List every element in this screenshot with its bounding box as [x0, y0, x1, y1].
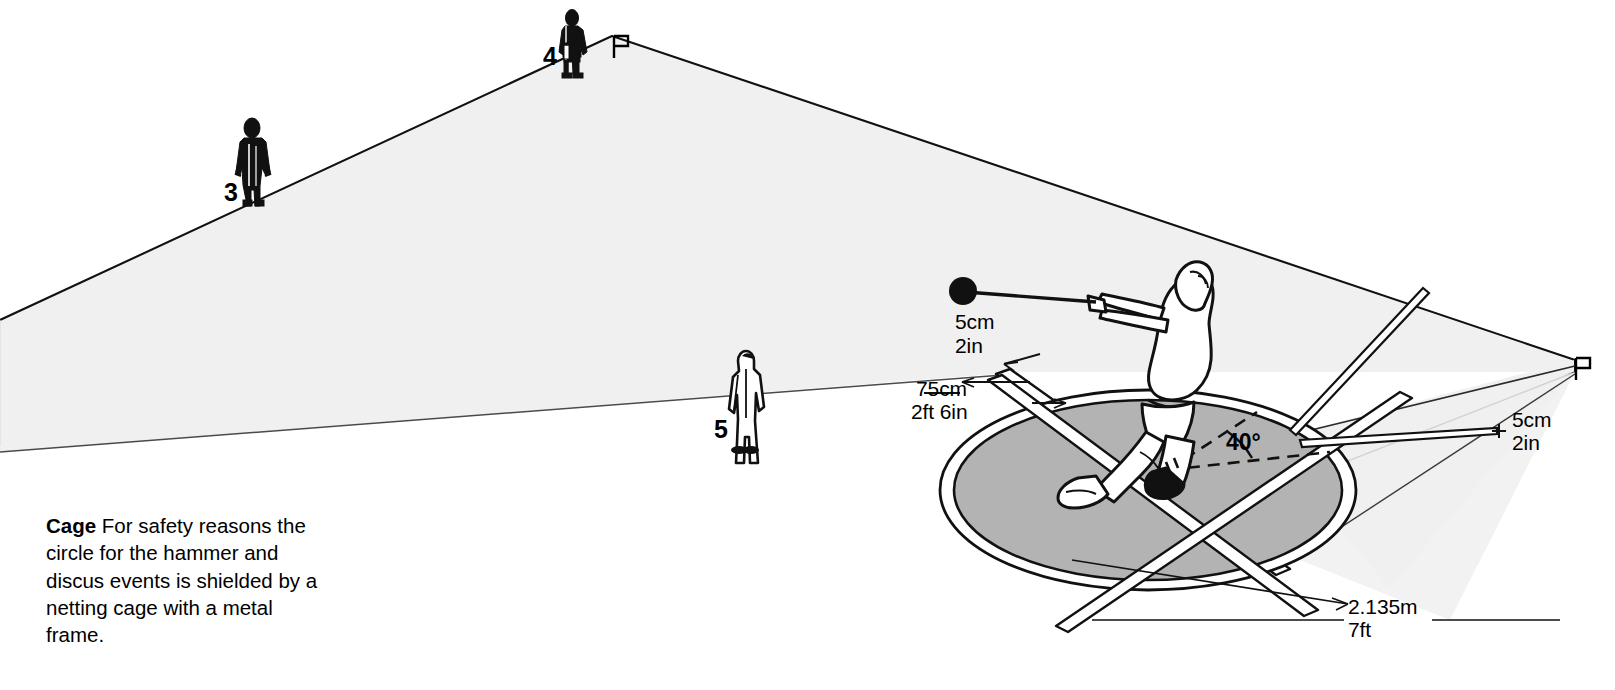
dim-net-side-imperial: 2in — [1512, 431, 1540, 455]
figure-number-5: 5 — [714, 415, 728, 443]
hammer-ball — [949, 277, 977, 305]
dim-circle-diameter-imperial: 7ft — [1348, 618, 1371, 642]
cage-caption: Cage For safety reasons the circle for t… — [46, 512, 336, 648]
dim-frame-height-imperial: 2ft 6in — [911, 400, 968, 424]
figure-3-person — [236, 118, 270, 206]
figure-canvas: 3 4 5 5cm 2in 75cm 2ft 6in 5cm 2in 2.135… — [0, 0, 1615, 690]
cage-post-marker-right — [1576, 358, 1590, 380]
dim-frame-height-metric: 75cm — [916, 377, 967, 401]
caption-keyword: Cage — [46, 514, 96, 537]
figure-number-4: 4 — [543, 42, 557, 70]
sector-angle-label: 40° — [1226, 430, 1260, 456]
dim-circle-diameter-metric: 2.135m — [1348, 595, 1417, 619]
dim-net-side-metric: 5cm — [1512, 408, 1551, 432]
dim-net-top-imperial: 2in — [955, 334, 983, 358]
dim-net-top-metric: 5cm — [955, 310, 994, 334]
figure-number-3: 3 — [224, 178, 238, 206]
